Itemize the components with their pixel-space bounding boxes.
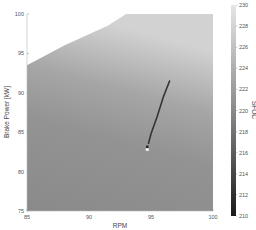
colorbar-label: SFOC — [251, 101, 256, 119]
colorbar-tick-label: 216 — [239, 150, 248, 156]
sfoc-surface — [27, 14, 213, 211]
trajectory-end-marker — [146, 148, 149, 150]
y-tick-label: 95 — [18, 50, 24, 56]
colorbar-tick-label: 220 — [239, 108, 248, 114]
y-tick-label: 100 — [15, 11, 24, 17]
trajectory-arrow-icon — [146, 146, 148, 149]
y-tick-label: 90 — [18, 90, 24, 96]
y-tick-label: 85 — [18, 129, 24, 135]
colorbar-gradient — [231, 5, 236, 216]
colorbar-tick-label: 212 — [239, 192, 248, 198]
x-tick-label: 100 — [208, 214, 217, 220]
colorbar-tick-label: 222 — [239, 86, 248, 92]
colorbar-tick-label: 214 — [239, 171, 248, 177]
y-axis-label: Brake Power [kW] — [3, 86, 11, 138]
colorbar: 210212214216218220222224226228230 — [231, 2, 248, 219]
x-tick-label: 95 — [148, 214, 154, 220]
x-tick-label: 90 — [86, 214, 92, 220]
colorbar-tick-label: 230 — [239, 2, 248, 8]
y-tick-label: 75 — [18, 208, 24, 214]
colorbar-tick-label: 224 — [239, 65, 248, 71]
colorbar-tick-label: 210 — [239, 213, 248, 219]
colorbar-tick-label: 226 — [239, 44, 248, 50]
y-tick-label: 80 — [18, 169, 24, 175]
colorbar-tick-label: 218 — [239, 129, 248, 135]
colorbar-tick-label: 228 — [239, 23, 248, 29]
plot-area — [27, 14, 213, 211]
x-tick-label: 85 — [24, 214, 30, 220]
x-axis-label: RPM — [113, 222, 127, 229]
sfoc-heatmap-chart: 859095100 7580859095100 2102122142162182… — [0, 0, 256, 230]
